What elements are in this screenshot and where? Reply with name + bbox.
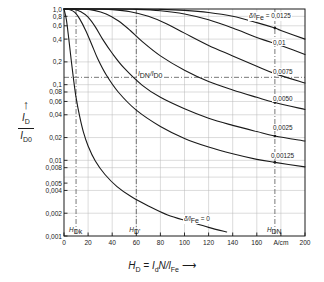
y-axis-tick-label: 0,02 bbox=[28, 134, 62, 141]
y-axis-tick-label: 1,0 bbox=[28, 6, 62, 13]
y-axis-tick-label: 0,04 bbox=[28, 111, 62, 118]
x-axis-tick-label: 200 bbox=[292, 239, 318, 246]
curve-label-3: 0,0050 bbox=[272, 95, 294, 102]
curve-marker-dot bbox=[274, 27, 277, 30]
curve-label-5: 0,00125 bbox=[270, 152, 295, 159]
x-axis-tick-label: 60 bbox=[123, 239, 149, 246]
x-axis-tick-label: 140 bbox=[220, 239, 246, 246]
axis-marker-hdn: HDN bbox=[267, 226, 282, 235]
curve-label-0: δ/lFe = 0,0125 bbox=[248, 12, 292, 21]
x-axis-tick-label: 20 bbox=[75, 239, 101, 246]
y-axis-tick-label: 0,005 bbox=[28, 180, 62, 187]
chart-figure: ↑ ID ID0 1,00,80,60,40,20,10,080,060,040… bbox=[0, 0, 324, 282]
y-axis-tick-label: 0,2 bbox=[28, 58, 62, 65]
curve-marker-dot bbox=[274, 135, 277, 138]
y-axis-tick-label: 0,6 bbox=[28, 22, 62, 29]
x-axis-label: HD = IdN/lFe ⟶ bbox=[0, 260, 324, 273]
y-axis-tick-label: 0,1 bbox=[28, 81, 62, 88]
y-axis-tick-label: 0,01 bbox=[28, 157, 62, 164]
curve-marker-dot bbox=[274, 161, 277, 164]
x-axis-tick-label: 100 bbox=[172, 239, 198, 246]
x-axis-tick-label: A/cm bbox=[268, 239, 294, 246]
curve-label-6: δ/lFe = 0 bbox=[183, 215, 211, 224]
y-axis-tick-label: 0,004 bbox=[28, 187, 62, 194]
x-axis-tick-label: 160 bbox=[244, 239, 270, 246]
y-axis-tick-label: 0,06 bbox=[28, 98, 62, 105]
curve-label-2: 0,0075 bbox=[272, 68, 294, 75]
y-axis-tick-label: 0,002 bbox=[28, 210, 62, 217]
x-axis-tick-label: 120 bbox=[196, 239, 222, 246]
x-axis-arrow-icon: ⟶ bbox=[182, 260, 196, 271]
axis-marker-hdk: HDk bbox=[69, 226, 82, 235]
x-axis-tick-label: 40 bbox=[99, 239, 125, 246]
y-axis-tick-label: 0,4 bbox=[28, 36, 62, 43]
x-axis-tick-label: 0 bbox=[51, 239, 77, 246]
curve-label-4: 0,0025 bbox=[272, 124, 294, 131]
inner-ratio-label: IDN/ID0 bbox=[137, 70, 163, 79]
y-axis-tick-label: 0,8 bbox=[28, 13, 62, 20]
y-axis-tick-label: 0,08 bbox=[28, 88, 62, 95]
axis-marker-hd-prime: HD' bbox=[129, 226, 140, 235]
x-axis-tick-label: 80 bbox=[147, 239, 173, 246]
y-axis-tick-label: 0,008 bbox=[28, 164, 62, 171]
curve-label-1: 0,01 bbox=[272, 39, 286, 46]
